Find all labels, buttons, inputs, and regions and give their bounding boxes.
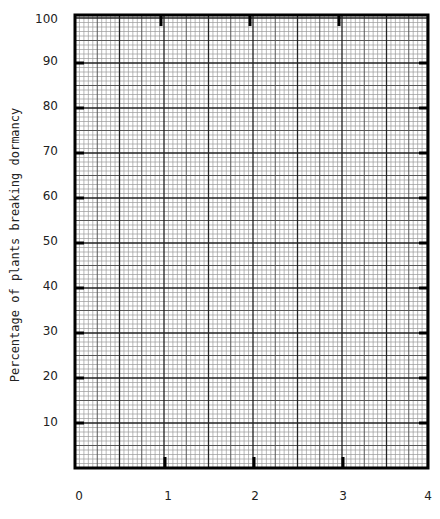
y-tick-10: 10 bbox=[43, 415, 58, 429]
x-tick-2: 2 bbox=[251, 489, 259, 503]
x-axis-tick-labels: 0 1 2 3 4 bbox=[75, 489, 432, 503]
y-tick-80: 80 bbox=[43, 99, 58, 113]
y-tick-20: 20 bbox=[43, 369, 58, 383]
x-tick-4: 4 bbox=[424, 489, 432, 503]
y-tick-100: 100 bbox=[35, 12, 58, 26]
y-tick-40: 40 bbox=[43, 279, 58, 293]
y-axis-label: Percentage of plants breaking dormancy bbox=[8, 108, 22, 383]
x-tick-3: 3 bbox=[339, 489, 347, 503]
y-tick-30: 30 bbox=[43, 324, 58, 338]
y-tick-70: 70 bbox=[43, 144, 58, 158]
graph-paper-chart: 100 90 80 70 60 50 40 30 20 10 0 1 2 3 4… bbox=[0, 0, 440, 519]
medium-grid bbox=[75, 15, 428, 468]
x-tick-1: 1 bbox=[164, 489, 172, 503]
x-tick-0: 0 bbox=[75, 489, 83, 503]
y-axis-tick-labels: 100 90 80 70 60 50 40 30 20 10 bbox=[35, 12, 58, 429]
y-tick-90: 90 bbox=[43, 54, 58, 68]
y-tick-50: 50 bbox=[43, 234, 58, 248]
y-tick-60: 60 bbox=[43, 189, 58, 203]
